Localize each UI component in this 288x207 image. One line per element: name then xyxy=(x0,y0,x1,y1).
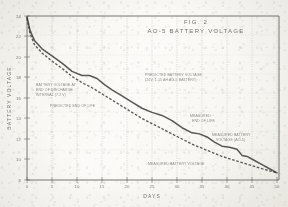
annotation-line: BATTERY VOLTAGE AT xyxy=(36,83,77,87)
y-tick-label: 10 xyxy=(16,157,21,162)
x-tick-label: 45 xyxy=(250,184,255,189)
y-tick-label: 20 xyxy=(16,55,21,60)
x-axis-title: DAYS xyxy=(143,193,161,199)
annotation-line: PREDICTED BATTERY VOLTAGE xyxy=(145,73,202,77)
x-tick-label: 50 xyxy=(275,184,280,189)
figure-panel: 24 22 20 18 16 14 12 10 8 0 5 10 15 20 2… xyxy=(0,0,288,207)
annotation-bottom: MEASURED BATTERY VOLTAGE xyxy=(148,162,205,166)
annotation-line: MEASURED BATTERY VOLTAGE xyxy=(148,162,205,166)
annotation-line: VOLTAGE (AO-5) xyxy=(216,138,245,142)
annotation-line: PREDICTED END OF LIFE xyxy=(50,104,96,108)
y-tick-labels: 24 22 20 18 16 14 12 10 8 xyxy=(16,14,21,183)
annotation-right-low: MEASURED BATTERY VOLTAGE (AO-5) xyxy=(212,133,251,142)
y-tick-label: 12 xyxy=(16,137,21,142)
chart-svg: 24 22 20 18 16 14 12 10 8 0 5 10 15 20 2… xyxy=(0,0,288,207)
annotation-line: INTERVAL (7.2 V) xyxy=(36,93,66,97)
x-tick-labels: 0 5 10 15 20 25 30 35 40 45 50 xyxy=(26,184,280,189)
figure-title-line1: FIG. 2 xyxy=(184,18,208,25)
x-tick-label: 10 xyxy=(75,184,80,189)
x-tick-label: 20 xyxy=(125,184,130,189)
y-tick-label: 24 xyxy=(16,14,21,19)
x-tick-label: 40 xyxy=(225,184,230,189)
x-tick-label: 15 xyxy=(100,184,105,189)
annotation-line: END OF DISCHARGE xyxy=(36,88,73,92)
x-tick-label: 0 xyxy=(26,184,29,189)
x-tick-label: 35 xyxy=(200,184,205,189)
y-tick-label: 22 xyxy=(16,34,21,39)
x-tick-label: 5 xyxy=(51,184,54,189)
x-tick-label: 25 xyxy=(150,184,155,189)
y-axis-title: BATTERY VOLTAGE xyxy=(6,66,12,129)
annotation-line: END OF LIFE xyxy=(192,119,215,123)
annotation-line: (24V, 1.15 AH AG-5 BATTERY) xyxy=(145,78,197,82)
y-tick-label: 8 xyxy=(19,178,22,183)
annotation-right-mid: MEASURED END OF LIFE xyxy=(190,114,215,123)
y-tick-label: 14 xyxy=(16,116,21,121)
y-tick-label: 18 xyxy=(16,75,21,80)
annotation-line: MEASURED BATTERY xyxy=(212,133,251,137)
figure-title-line2: AO-5 BATTERY VOLTAGE xyxy=(148,27,245,34)
annotation-upper-right: PREDICTED BATTERY VOLTAGE (24V, 1.15 AH … xyxy=(145,73,202,82)
annotation-line: MEASURED xyxy=(190,114,211,118)
y-tick-label: 16 xyxy=(16,96,21,101)
x-tick-label: 30 xyxy=(175,184,180,189)
annotation-upper-left: BATTERY VOLTAGE AT END OF DISCHARGE INTE… xyxy=(36,83,77,97)
annotation-left-lower: PREDICTED END OF LIFE xyxy=(50,104,96,108)
